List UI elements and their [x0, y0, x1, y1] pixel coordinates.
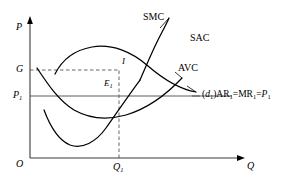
curve-lower-left-arm: [44, 80, 140, 146]
x-tick-label-Q1: Q1: [113, 162, 123, 172]
x-axis-label: Q: [247, 161, 254, 171]
x-tick-Q1-subscript: 1: [120, 166, 123, 173]
y-tick-label-P1: P1: [13, 90, 22, 100]
demand-line-label: (d1)AR1=MR1=P1: [202, 90, 271, 100]
y-axis-arrow-icon: [27, 16, 33, 24]
y-tick-P1-subscript: 1: [19, 94, 22, 101]
demand-ar: AR: [216, 89, 229, 99]
point-E1-subscript: 1: [110, 82, 113, 89]
curve-label-smc: SMC: [143, 12, 164, 22]
demand-d-subscript: 1: [210, 93, 213, 100]
x-axis-arrow-icon: [237, 155, 245, 161]
point-label-E1: E1: [104, 79, 113, 88]
y-axis-label: P: [16, 22, 22, 32]
demand-ar-subscript: 1: [230, 93, 233, 100]
origin-label: O: [16, 159, 23, 169]
curve-label-sac: SAC: [190, 33, 209, 43]
demand-mr: MR: [238, 89, 253, 99]
point-label-I: I: [122, 57, 125, 66]
demand-p-subscript: 1: [267, 93, 270, 100]
point-E1-base: E: [104, 78, 110, 88]
y-tick-label-G: G: [16, 64, 23, 74]
curve-label-avc: AVC: [178, 63, 198, 73]
demand-mr-subscript: 1: [253, 93, 256, 100]
cost-curve-figure: P Q O G P1 Q1 I E1 SMC SAC AVC (d1)AR1=M…: [0, 0, 284, 190]
